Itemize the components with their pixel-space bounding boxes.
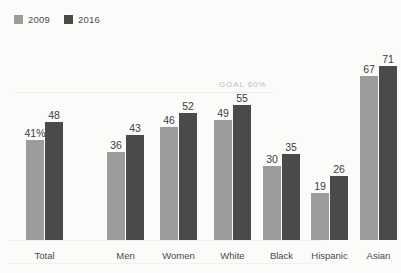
bar-rect: [107, 152, 125, 240]
bar-value-label: 52: [182, 101, 194, 112]
bar-value-label: 41%: [24, 128, 45, 139]
category-label-total: Total: [18, 251, 71, 261]
bar-value-label: 35: [285, 142, 297, 153]
bar-value-label: 19: [314, 181, 326, 192]
bar-group-asian: 6771: [360, 66, 397, 240]
bar-value-label: 67: [363, 64, 375, 75]
bar-value-label: 71: [382, 54, 394, 65]
bar-asian-2009[interactable]: 67: [360, 76, 378, 240]
bar-group-hispanic: 1926: [311, 176, 348, 240]
bar-white-2009[interactable]: 49: [214, 120, 232, 240]
bar-value-label: 55: [236, 93, 248, 104]
bar-rect: [360, 76, 378, 240]
bar-value-label: 49: [217, 108, 229, 119]
baseline-rule: [8, 240, 322, 241]
category-label-white: White: [206, 251, 259, 261]
bar-women-2016[interactable]: 52: [179, 113, 197, 240]
bar-hispanic-2009[interactable]: 19: [311, 193, 329, 240]
category-label-women: Women: [152, 251, 205, 261]
bar-value-label: 36: [110, 140, 122, 151]
category-label-hispanic: Hispanic: [303, 251, 356, 261]
bar-group-men: 3643: [107, 135, 144, 240]
axis-rule: [8, 263, 322, 264]
bar-black-2009[interactable]: 30: [263, 166, 281, 240]
bar-rect: [379, 66, 397, 240]
bar-white-2016[interactable]: 55: [233, 105, 251, 240]
bar-rect: [26, 140, 44, 240]
bar-rect: [45, 122, 63, 240]
bar-rect: [330, 176, 348, 240]
bar-asian-2016[interactable]: 71: [379, 66, 397, 240]
bar-rect: [263, 166, 281, 240]
bar-group-total: 41%48: [26, 122, 63, 240]
category-label-asian: Asian: [352, 251, 401, 261]
bar-rect: [179, 113, 197, 240]
category-label-black: Black: [255, 251, 308, 261]
bar-value-label: 30: [266, 154, 278, 165]
bar-men-2009[interactable]: 36: [107, 152, 125, 240]
bar-group-black: 3035: [263, 154, 300, 240]
bar-total-2009[interactable]: 41%: [26, 140, 44, 240]
goal-reference-line: [14, 92, 274, 93]
bar-total-2016[interactable]: 48: [45, 122, 63, 240]
bar-women-2009[interactable]: 46: [160, 127, 178, 240]
bar-group-white: 4955: [214, 105, 251, 240]
bar-value-label: 48: [48, 110, 60, 121]
bar-black-2016[interactable]: 35: [282, 154, 300, 240]
category-label-men: Men: [99, 251, 152, 261]
goal-annotation-label: GOAL 60%: [219, 80, 266, 89]
bar-men-2016[interactable]: 43: [126, 135, 144, 240]
bar-rect: [214, 120, 232, 240]
bar-rect: [282, 154, 300, 240]
bar-value-label: 43: [129, 123, 141, 134]
bar-rect: [233, 105, 251, 240]
bar-value-label: 46: [163, 115, 175, 126]
bar-rect: [126, 135, 144, 240]
bar-hispanic-2016[interactable]: 26: [330, 176, 348, 240]
bar-value-label: 26: [333, 164, 345, 175]
bar-rect: [160, 127, 178, 240]
bar-rect: [311, 193, 329, 240]
bar-group-women: 4652: [160, 113, 197, 240]
